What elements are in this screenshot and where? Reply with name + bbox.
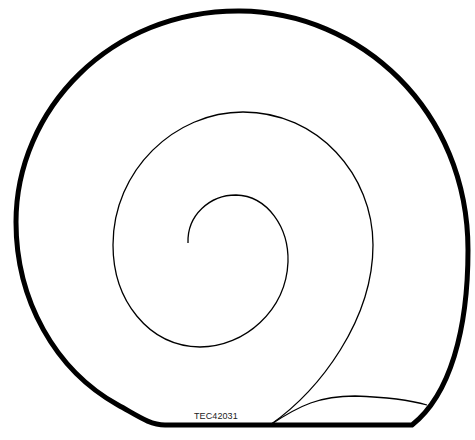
inner-spiral-line bbox=[113, 112, 373, 425]
reference-code-label: TEC42031 bbox=[194, 411, 238, 421]
sheet-curl-line bbox=[270, 396, 427, 425]
spiral-roll-diagram bbox=[0, 0, 475, 440]
outer-roll-outline bbox=[16, 11, 468, 425]
